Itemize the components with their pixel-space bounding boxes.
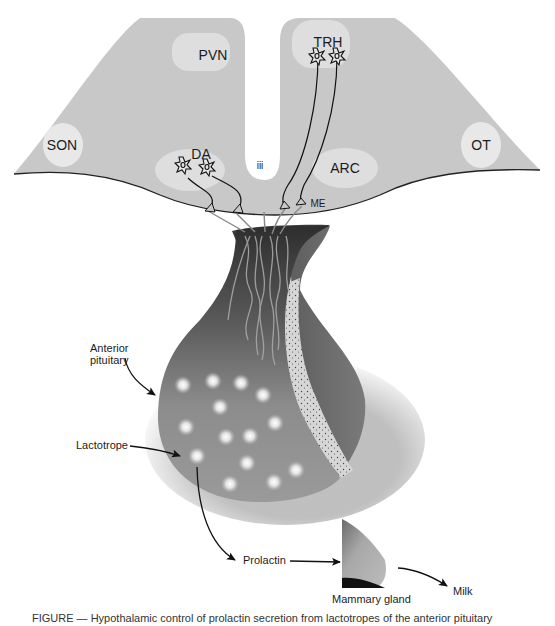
label-trh: TRH — [314, 35, 343, 50]
label-third-ventricle: iii — [257, 161, 264, 172]
label-pvn: PVN — [199, 48, 228, 63]
figure-caption: FIGURE — Hypothalamic control of prolact… — [32, 612, 532, 626]
label-son: SON — [47, 138, 77, 153]
label-anterior-pituitary-line1: Anterior — [90, 343, 129, 355]
label-lactotrope: Lactotrope — [76, 440, 128, 452]
anterior-pituitary-arrow — [125, 358, 155, 395]
label-ot: OT — [471, 138, 490, 153]
label-prolactin: Prolactin — [243, 555, 286, 567]
label-mammary-gland: Mammary gland — [332, 594, 411, 606]
label-arc: ARC — [330, 161, 360, 176]
to-mammary-arrow — [290, 561, 340, 562]
label-anterior-pituitary-line2: pituitary — [90, 355, 129, 367]
label-da: DA — [191, 147, 210, 162]
pituitary-gland — [158, 225, 365, 502]
hypothalamus — [14, 18, 540, 215]
mammary-gland — [342, 519, 386, 588]
label-me: ME — [311, 199, 326, 210]
milk-arrow — [398, 568, 447, 586]
label-milk: Milk — [453, 586, 473, 598]
